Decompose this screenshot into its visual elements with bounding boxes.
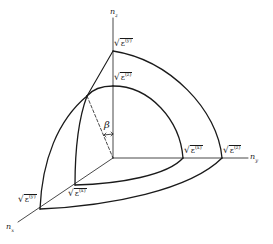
beta-angle-arc xyxy=(104,134,113,135)
inner-top-right-arc xyxy=(113,86,183,158)
inner-left-arc xyxy=(75,96,87,185)
outer-top-left-line xyxy=(87,51,113,96)
label-top-outer: √ε(y) xyxy=(114,38,133,48)
label-right-inner: √ε(x) xyxy=(184,145,203,155)
axis-label-nx: nx xyxy=(6,223,14,233)
inner-bottom-arc xyxy=(75,158,183,185)
outer-top-right-arc xyxy=(113,51,222,158)
label-front-outer: √ε(y) xyxy=(18,194,37,204)
diagonal-axis xyxy=(18,158,113,222)
label-right-outer: √ε(z) xyxy=(223,145,241,155)
inner-top-left-arc xyxy=(87,86,113,96)
angle-beta-label: β xyxy=(104,120,110,130)
outer-bottom-arc xyxy=(40,158,222,209)
axis-label-ny: ny xyxy=(250,153,258,163)
label-top-inner: √ε(z) xyxy=(114,72,132,82)
label-front-inner: √ε(x) xyxy=(68,188,87,198)
index-ellipsoid-diagram xyxy=(0,0,273,244)
axis-label-nz: nz xyxy=(110,8,118,18)
